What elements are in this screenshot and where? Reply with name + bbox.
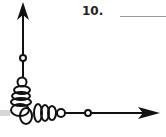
angle-diagram: [0, 0, 166, 137]
